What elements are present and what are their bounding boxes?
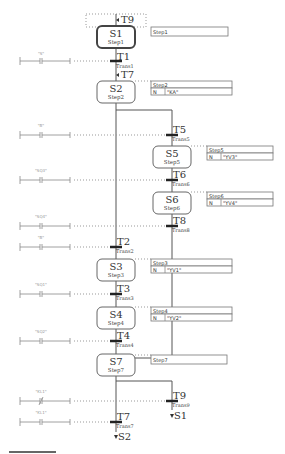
transition-t2[interactable]: T2 Trans2 [110, 236, 134, 254]
step-s6[interactable]: S6 Step6 [153, 192, 191, 214]
contact-t6[interactable]: "SQ3" [20, 168, 70, 184]
step-s7-comment[interactable]: Step7 [151, 355, 227, 364]
svg-text:Trans2: Trans2 [116, 248, 134, 254]
svg-text:Step6: Step6 [209, 193, 224, 200]
transition-t1[interactable]: T1 Trans1 [110, 51, 134, 69]
jump-out-s2[interactable]: S2 [114, 431, 131, 442]
jump-in-label: T9 [121, 14, 134, 25]
svg-text:"SQ4": "SQ4" [35, 214, 47, 219]
svg-text:T7: T7 [117, 411, 130, 422]
svg-text:T9: T9 [173, 390, 186, 401]
step-s3-action[interactable]: Step3 N "YV1" [151, 259, 232, 273]
transition-t7[interactable]: T7 Trans7 [110, 411, 134, 429]
svg-text:N: N [153, 315, 157, 321]
svg-text:Step6: Step6 [164, 205, 181, 212]
svg-text:S5: S5 [165, 148, 178, 159]
transition-t4[interactable]: T4 Trans4 [110, 330, 134, 348]
transition-t8[interactable]: T8 Trans8 [166, 215, 190, 233]
svg-text:N: N [209, 200, 213, 206]
sfc-diagram: T9 S1 Step1 Step1 T1 Trans1 "S" T7 [0, 0, 285, 454]
contact-t5[interactable]: "B" [20, 123, 70, 139]
svg-text:"B": "B" [38, 235, 45, 240]
svg-text:"B": "B" [38, 123, 45, 128]
svg-text:S1: S1 [109, 28, 122, 39]
contact-t2[interactable]: "B" [20, 235, 70, 251]
svg-text:Step5: Step5 [209, 147, 224, 154]
svg-text:"S": "S" [38, 51, 44, 56]
svg-text:S1: S1 [174, 410, 187, 421]
svg-text:Step2: Step2 [153, 82, 168, 89]
svg-text:S7: S7 [109, 356, 122, 367]
transition-t9[interactable]: T9 Trans9 [166, 390, 190, 408]
svg-text:T5: T5 [173, 124, 186, 135]
step-s5-action[interactable]: Step5 N "YV3" [207, 146, 273, 160]
jump-in-label: T7 [121, 69, 134, 80]
contact-t7[interactable]: "KL1" [20, 410, 70, 426]
svg-text:T1: T1 [117, 51, 130, 62]
step-s6-action[interactable]: Step6 N "YV4" [207, 192, 273, 206]
svg-text:S2: S2 [109, 83, 122, 94]
transition-t5[interactable]: T5 Trans5 [166, 124, 190, 142]
svg-text:Step7: Step7 [108, 367, 125, 374]
contact-t8[interactable]: "SQ4" [20, 214, 70, 230]
step-s2[interactable]: S2 Step2 [97, 81, 135, 103]
svg-text:"YV4": "YV4" [223, 200, 237, 206]
step-s1[interactable]: S1 Step1 [97, 26, 135, 48]
transition-t6[interactable]: T6 Trans6 [166, 169, 190, 187]
jump-out-s1[interactable]: S1 [170, 410, 187, 421]
transition-t3[interactable]: T3 Trans3 [110, 283, 134, 301]
svg-text:Step3: Step3 [153, 260, 168, 267]
svg-text:N: N [209, 154, 213, 160]
step-s4-action[interactable]: Step4 N "YV2" [151, 307, 232, 321]
svg-text:Trans7: Trans7 [116, 423, 134, 429]
svg-text:N: N [153, 267, 157, 273]
step-s7[interactable]: S7 Step7 [97, 354, 135, 376]
step-s2-action[interactable]: Step2 N "KA" [151, 81, 232, 95]
contact-t1[interactable]: "S" [20, 51, 70, 65]
jump-in-t7[interactable]: T7 [116, 69, 134, 80]
svg-text:N: N [153, 89, 157, 95]
jump-in-t9[interactable]: T9 [116, 14, 134, 26]
svg-text:S3: S3 [109, 261, 122, 272]
svg-text:Step7: Step7 [153, 357, 168, 364]
svg-text:T3: T3 [117, 283, 130, 294]
svg-text:Step2: Step2 [108, 94, 124, 101]
step-s1-comment[interactable]: Step1 [151, 27, 228, 36]
svg-text:Trans4: Trans4 [116, 342, 134, 348]
svg-text:Trans5: Trans5 [172, 136, 190, 142]
svg-text:"KA": "KA" [167, 89, 178, 95]
svg-text:"SQ3": "SQ3" [35, 168, 47, 173]
svg-text:S2: S2 [118, 431, 131, 442]
step-s5[interactable]: S5 Step5 [153, 146, 191, 168]
svg-text:Trans3: Trans3 [116, 295, 134, 301]
svg-text:Step4: Step4 [108, 320, 125, 327]
contact-t9[interactable]: "KL1" [20, 389, 70, 405]
svg-text:T8: T8 [173, 215, 186, 226]
svg-text:T2: T2 [117, 236, 130, 247]
svg-text:"YV2": "YV2" [167, 315, 181, 321]
svg-text:"KL1": "KL1" [35, 389, 46, 394]
svg-text:Step1: Step1 [108, 39, 124, 46]
svg-text:T4: T4 [117, 330, 130, 341]
svg-text:"YV3": "YV3" [223, 154, 237, 160]
svg-text:Step1: Step1 [153, 29, 168, 36]
svg-text:Trans8: Trans8 [172, 227, 190, 233]
svg-text:Trans9: Trans9 [172, 402, 190, 408]
contact-t3[interactable]: "SQ1" [20, 282, 70, 298]
svg-text:Step3: Step3 [108, 272, 125, 279]
contact-t4[interactable]: "SQ2" [20, 329, 70, 345]
step-s4[interactable]: S4 Step4 [97, 307, 135, 329]
svg-text:T6: T6 [173, 169, 186, 180]
svg-text:"YV1": "YV1" [167, 267, 181, 273]
svg-text:Step4: Step4 [153, 308, 168, 315]
svg-text:"SQ2": "SQ2" [35, 329, 47, 334]
svg-text:Trans6: Trans6 [172, 181, 190, 187]
step-s3[interactable]: S3 Step3 [97, 259, 135, 281]
svg-text:S6: S6 [165, 194, 178, 205]
svg-text:S4: S4 [109, 309, 122, 320]
svg-text:"SQ1": "SQ1" [35, 282, 47, 287]
svg-text:"KL1": "KL1" [35, 410, 46, 415]
svg-text:Step5: Step5 [164, 159, 181, 166]
